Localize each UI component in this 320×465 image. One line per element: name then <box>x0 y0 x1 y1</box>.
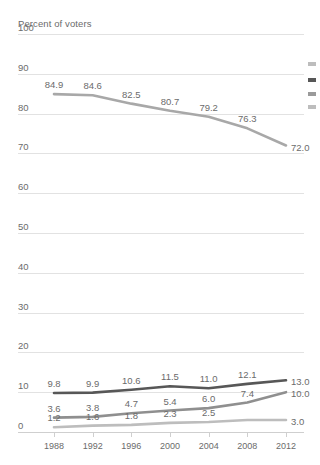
legend-swatch-4 <box>308 105 316 109</box>
data-label-series-2-1988: 9.8 <box>47 378 60 389</box>
data-label-series-2-1996: 10.6 <box>122 375 141 386</box>
data-label-series-3-2012: 10.0 <box>291 388 310 399</box>
data-label-series-1-2004: 79.2 <box>199 102 218 113</box>
x-tick-mark-2004 <box>209 432 210 437</box>
data-label-series-2-1992: 9.9 <box>86 378 99 389</box>
data-label-series-2-2008: 12.1 <box>238 369 257 380</box>
data-label-series-4-1988: 1.2 <box>47 412 60 423</box>
data-label-series-1-1992: 84.6 <box>83 80 102 91</box>
data-label-series-2-2012: 13.0 <box>291 376 310 387</box>
data-label-series-2-2000: 11.5 <box>161 371 179 382</box>
data-label-series-1-1988: 84.9 <box>45 79 64 90</box>
data-label-series-1-1996: 82.5 <box>122 89 141 100</box>
line-chart: Percent of voters 0102030405060708090100… <box>0 0 320 465</box>
x-tick-label-2008: 2008 <box>237 441 257 451</box>
legend-swatch-1 <box>308 62 316 66</box>
data-label-series-3-2008: 7.4 <box>241 388 254 399</box>
legend-swatch-2 <box>308 78 316 82</box>
x-tick-mark-1988 <box>54 432 55 437</box>
x-tick-label-1988: 1988 <box>44 441 64 451</box>
data-label-series-1-2008: 76.3 <box>238 113 257 124</box>
x-tick-mark-1996 <box>131 432 132 437</box>
x-tick-label-2000: 2000 <box>160 441 180 451</box>
data-label-series-4-2012: 3.0 <box>291 416 304 427</box>
x-axis: 1988199219962000200420082012 <box>18 432 304 460</box>
data-label-series-1-2012: 72.0 <box>291 142 310 153</box>
data-label-series-4-2000: 2.3 <box>163 408 176 419</box>
x-tick-label-2004: 2004 <box>199 441 219 451</box>
data-label-series-3-2004: 6.0 <box>202 393 215 404</box>
data-label-series-4-1992: 1.6 <box>86 411 99 422</box>
legend-swatch-3 <box>308 92 316 96</box>
data-label-series-3-1996: 4.7 <box>125 398 138 409</box>
data-label-series-4-1996: 1.8 <box>125 410 138 421</box>
data-label-series-4-2004: 2.5 <box>202 407 215 418</box>
plot-area: 0102030405060708090100 84.984.682.580.77… <box>18 34 304 432</box>
x-tick-mark-1992 <box>93 432 94 437</box>
x-tick-mark-2012 <box>286 432 287 437</box>
x-tick-label-1996: 1996 <box>121 441 141 451</box>
y-tick-label-100: 100 <box>18 22 34 33</box>
data-label-series-3-2000: 5.4 <box>163 396 176 407</box>
x-tick-label-2012: 2012 <box>276 441 296 451</box>
data-label-series-1-2000: 80.7 <box>161 96 180 107</box>
x-tick-mark-2000 <box>170 432 171 437</box>
data-label-series-2-2004: 11.0 <box>200 373 218 384</box>
x-tick-label-1992: 1992 <box>83 441 103 451</box>
x-tick-mark-2008 <box>247 432 248 437</box>
